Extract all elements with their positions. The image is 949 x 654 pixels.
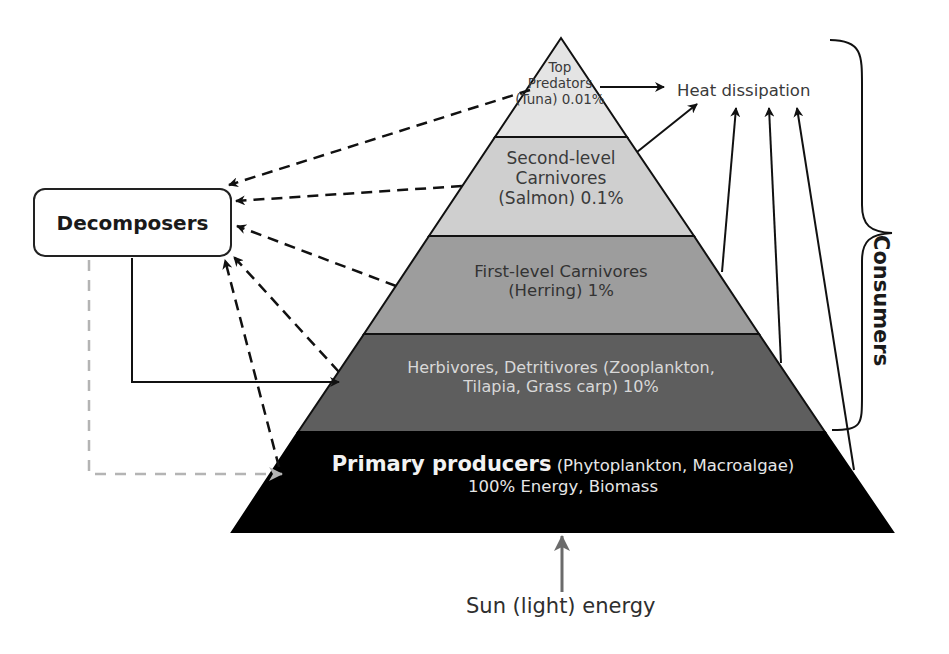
- heat-arrow-second: [637, 104, 697, 152]
- herbivores-label: Herbivores, Detritivores (Zooplankton, T…: [330, 359, 792, 397]
- decomp-to-herbivores-arrow: [132, 258, 339, 382]
- decomp-arrow-first: [237, 226, 396, 286]
- consumers-label: Consumers: [869, 235, 893, 366]
- heat-dissipation-label: Heat dissipation: [677, 81, 810, 100]
- primary-producers-label: Primary producers (Phytoplankton, Macroa…: [265, 452, 861, 496]
- second-carnivores-label: Second-level Carnivores (Salmon) 0.1%: [440, 148, 682, 208]
- decomp-arrow-second: [236, 186, 462, 201]
- decomp-arrow-primary: [225, 260, 279, 467]
- heat-arrow-first: [722, 108, 736, 272]
- decomp-to-primary-arrow: [89, 260, 282, 474]
- heat-arrow-herbivores: [769, 108, 781, 363]
- first-carnivores-label: First-level Carnivores (Herring) 1%: [400, 262, 722, 301]
- decomposers-box: Decomposers: [33, 188, 232, 257]
- top-predators-label: Top Predators (Tuna) 0.01%: [505, 60, 615, 108]
- sun-energy-label: Sun (light) energy: [466, 594, 655, 618]
